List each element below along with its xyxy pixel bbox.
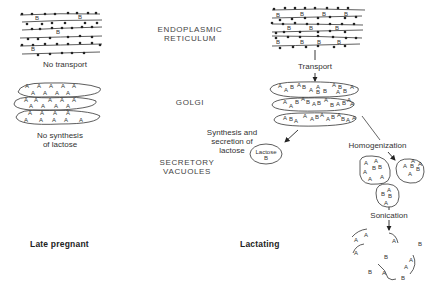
svg-text:B: B	[300, 39, 304, 45]
svg-text:A: A	[409, 257, 413, 263]
enzymes-vesicles: AABBAAA ABABAA ABBA	[363, 158, 422, 206]
svg-text:B: B	[401, 275, 405, 281]
enzymes-fragments: AAAABBBAAAB	[354, 232, 422, 281]
svg-text:A: A	[411, 158, 415, 164]
svg-text:A: A	[66, 110, 70, 116]
svg-text:B: B	[322, 11, 326, 17]
svg-text:B: B	[300, 11, 304, 17]
svg-text:A: A	[54, 103, 58, 109]
svg-text:B: B	[302, 84, 306, 90]
no-transport-label: No transport	[30, 60, 100, 69]
svg-text:A: A	[324, 97, 328, 103]
svg-text:B: B	[276, 12, 280, 18]
svg-text:A: A	[350, 84, 354, 90]
transport-label: Transport	[290, 62, 340, 71]
stage-lactating: Lactating	[240, 239, 280, 249]
svg-text:A: A	[364, 160, 368, 166]
svg-text:A: A	[29, 103, 33, 109]
svg-text:A: A	[284, 87, 288, 93]
svg-text:A: A	[37, 83, 41, 89]
stage-late-pregnant: Late pregnant	[30, 239, 89, 249]
svg-text:A: A	[24, 97, 28, 103]
svg-text:B: B	[344, 11, 348, 17]
svg-text:B: B	[368, 269, 372, 275]
svg-text:A: A	[303, 113, 307, 119]
svg-text:B: B	[309, 25, 313, 31]
svg-text:B: B	[276, 39, 280, 45]
svg-text:A: A	[278, 83, 282, 89]
svg-text:A: A	[350, 101, 354, 107]
svg-text:A: A	[61, 83, 65, 89]
homogenization-arrow	[388, 152, 395, 160]
svg-text:B: B	[341, 116, 345, 122]
er-label: ENDOPLASMIC RETICULUM	[150, 25, 230, 43]
svg-text:B: B	[335, 25, 339, 31]
svg-text:A: A	[404, 264, 408, 270]
secretion-arrow	[285, 130, 298, 142]
svg-text:A: A	[24, 117, 28, 123]
svg-text:A: A	[294, 118, 298, 124]
svg-text:A: A	[336, 101, 340, 107]
svg-text:A: A	[297, 82, 301, 88]
svg-text:B: B	[343, 88, 347, 94]
enzyme-b-right: BBBB BBB BBBB	[276, 11, 348, 45]
svg-text:A: A	[320, 112, 324, 118]
svg-text:A: A	[289, 103, 293, 109]
enzyme-a-left: AAAAA AAAA AAAAA AAAA AAAA AAAAA	[24, 83, 83, 123]
svg-text:A: A	[392, 238, 396, 244]
svg-text:A: A	[39, 117, 43, 123]
svg-text:B: B	[416, 166, 420, 172]
svg-text:B: B	[384, 254, 388, 260]
svg-text:B: B	[330, 102, 334, 108]
svg-text:B: B	[289, 116, 293, 122]
svg-text:B: B	[56, 29, 60, 35]
svg-text:A: A	[363, 169, 367, 175]
svg-text:A: A	[368, 176, 372, 182]
svg-text:B: B	[306, 99, 310, 105]
svg-text:A: A	[346, 117, 350, 123]
svg-text:A: A	[79, 117, 83, 123]
svg-text:A: A	[352, 115, 356, 121]
svg-text:B: B	[35, 15, 39, 21]
svg-text:A: A	[312, 101, 316, 107]
svg-text:B: B	[381, 191, 385, 197]
svg-text:B: B	[342, 100, 346, 106]
svg-text:B: B	[331, 114, 335, 120]
svg-text:A: A	[384, 200, 388, 206]
svg-text:A: A	[403, 163, 407, 169]
svg-text:A: A	[380, 174, 384, 180]
svg-text:B: B	[287, 25, 291, 31]
no-synthesis-label: No synthesis of lactose	[25, 131, 95, 149]
svg-text:B: B	[78, 14, 82, 20]
svg-text:B: B	[295, 99, 299, 105]
svg-text:A: A	[64, 117, 68, 123]
svg-text:A: A	[354, 250, 358, 256]
svg-text:A: A	[364, 232, 368, 238]
golgi-label: GOLGI	[160, 98, 220, 107]
svg-text:B: B	[315, 114, 319, 120]
enzyme-b-left: B B B B	[31, 14, 82, 52]
svg-text:B: B	[290, 84, 294, 90]
svg-text:A: A	[43, 90, 47, 96]
svg-text:A: A	[336, 89, 340, 95]
svg-text:A: A	[310, 116, 314, 122]
secretory-vacuoles-label: SECRETORY VACUOLES	[152, 158, 222, 176]
svg-text:B: B	[418, 241, 422, 247]
svg-text:A: A	[408, 171, 412, 177]
svg-text:A: A	[301, 96, 305, 102]
svg-text:A: A	[72, 83, 76, 89]
svg-text:B: B	[316, 89, 320, 95]
enzymes-golgi-right: AABABAABBABABA AABABABABABAA ABAAABAABAB…	[278, 82, 356, 124]
svg-text:A: A	[28, 110, 32, 116]
svg-text:A: A	[283, 99, 287, 105]
svg-text:A: A	[66, 103, 70, 109]
svg-text:A: A	[332, 82, 336, 88]
svg-text:B: B	[31, 46, 35, 52]
svg-text:A: A	[283, 115, 287, 121]
svg-text:A: A	[55, 90, 59, 96]
svg-text:A: A	[72, 97, 76, 103]
svg-text:A: A	[49, 83, 53, 89]
svg-text:A: A	[41, 103, 45, 109]
svg-text:A: A	[60, 97, 64, 103]
svg-text:B: B	[337, 39, 341, 45]
